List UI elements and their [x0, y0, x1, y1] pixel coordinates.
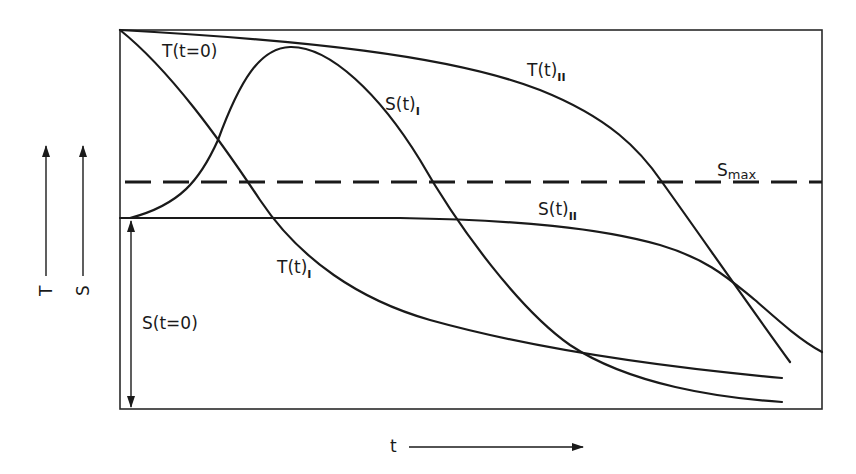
label-T-II: T(t)II	[526, 60, 566, 84]
label-S-I-sub: I	[416, 105, 420, 118]
temperature-saturation-diagram: T(t=0) T(t)II S(t)I Smax S(t)II T(t)I S(…	[0, 0, 856, 474]
label-smax: Smax	[717, 160, 756, 182]
label-S-II-main: S(t)	[538, 199, 569, 219]
curve-T-II	[120, 30, 790, 362]
label-T-I-sub: I	[307, 268, 311, 281]
label-T-II-sub: II	[557, 71, 565, 84]
label-smax-main: S	[717, 160, 728, 180]
curve-T-I	[120, 30, 782, 378]
label-S-I: S(t)I	[385, 94, 420, 118]
x-axis-label-t: t	[390, 436, 397, 456]
label-S-I-main: S(t)	[385, 94, 416, 114]
label-T-II-main: T(t)	[526, 60, 557, 80]
y-axis-label-T: T	[36, 285, 56, 297]
y-axis-label-S: S	[73, 285, 93, 296]
label-T-I: T(t)I	[276, 257, 311, 281]
curve-S-I	[130, 47, 782, 402]
label-smax-sub: max	[728, 167, 757, 182]
label-T-I-main: T(t)	[276, 257, 307, 277]
label-S-II-sub: II	[569, 210, 577, 223]
label-S-II: S(t)II	[538, 199, 577, 223]
label-T-t0: T(t=0)	[161, 41, 217, 61]
label-S-t0: S(t=0)	[142, 313, 198, 333]
